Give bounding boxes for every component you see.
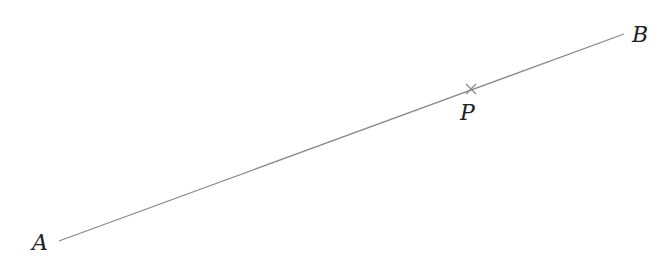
label-a: A — [30, 230, 48, 255]
label-p: P — [459, 100, 476, 125]
label-b: B — [631, 22, 648, 47]
segment-ab — [59, 34, 624, 241]
diagram-canvas: A B P — [0, 0, 672, 277]
